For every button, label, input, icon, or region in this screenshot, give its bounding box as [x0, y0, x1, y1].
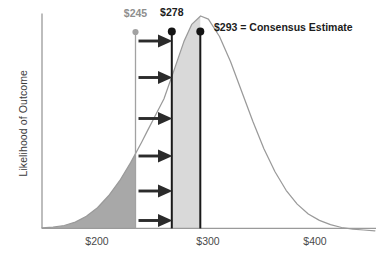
shift-arrows-group: [139, 41, 165, 221]
marker-label-278: $278: [142, 7, 202, 18]
x-tick-label-200: $200: [67, 236, 127, 247]
shaded-region-tail-below-245: [42, 16, 375, 231]
y-axis-title: Likelihood of Outcome: [18, 43, 29, 203]
chart-container: Likelihood of Outcome $245 $278 $293 = C…: [0, 0, 379, 262]
x-tick-label-400: $400: [285, 236, 345, 247]
shaded-region-band-278-293: [42, 16, 375, 231]
density-curve: [42, 16, 375, 231]
consensus-estimate-annotation: $293 = Consensus Estimate: [214, 22, 353, 33]
distribution-chart-svg: [0, 0, 379, 262]
x-tick-label-300: $300: [178, 236, 238, 247]
